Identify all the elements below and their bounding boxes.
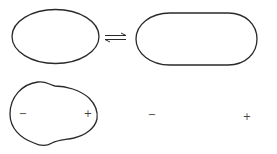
bottom-right-minus-label: − xyxy=(148,110,156,120)
top-right-elongated-ellipse xyxy=(136,13,257,65)
top-left-ellipse xyxy=(12,10,99,64)
bottom-left-minus-label: − xyxy=(19,109,27,119)
top-equilibrium-arrow-icon xyxy=(105,33,126,42)
diagram-canvas xyxy=(0,0,277,154)
bottom-right-plus-label: + xyxy=(243,112,251,122)
bottom-left-plus-label: + xyxy=(84,109,92,119)
